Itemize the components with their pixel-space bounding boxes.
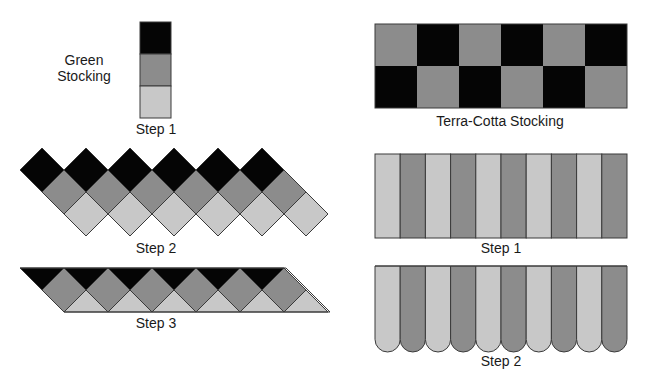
rounded-stripe [425,266,450,352]
rounded-stripe [501,266,526,352]
rounded-stripe [375,266,400,352]
green-step3-strip [20,268,330,312]
stripe [526,154,551,238]
terra-cotta-step2-rounded-stripes [375,266,627,352]
rounded-stripe [577,266,602,352]
rounded-stripe [551,266,576,352]
terra-cotta-title: Terra-Cotta Stocking [420,113,580,129]
rounded-stripe [400,266,425,352]
green-stocking-title: Green Stocking [44,52,124,84]
checker-square [375,24,417,66]
checker-square [501,66,543,108]
checker-square [375,66,417,108]
checker-square [417,24,459,66]
checker-square [501,24,543,66]
stripe [400,154,425,238]
green-stocking-title-line1: Green [44,52,124,68]
rounded-stripe [451,266,476,352]
checker-square [543,66,585,108]
stack-square [140,22,171,54]
checker-square [543,24,585,66]
stripe [451,154,476,238]
terra-cotta-step1-label: Step 1 [465,240,537,256]
stripe [577,154,602,238]
stripe [602,154,627,238]
checker-square [417,66,459,108]
checker-square [459,66,501,108]
terra-cotta-checkerboard [375,24,627,108]
terra-cotta-step2-label: Step 2 [465,353,537,369]
stack-square [140,86,171,118]
rounded-stripe [526,266,551,352]
stripe [375,154,400,238]
green-step1-stack [140,22,171,118]
terra-cotta-step1-stripes [375,154,627,238]
stripe [476,154,501,238]
stack-square [140,54,171,86]
checker-square [459,24,501,66]
stripe [501,154,526,238]
checker-square [585,24,627,66]
green-stocking-title-line2: Stocking [44,68,124,84]
stripe [425,154,450,238]
stripe [551,154,576,238]
green-step3-label: Step 3 [120,315,192,331]
green-step2-label: Step 2 [120,240,192,256]
green-step1-label: Step 1 [120,121,192,137]
rounded-stripe [476,266,501,352]
green-step2-diamonds [20,148,328,236]
rounded-stripe [602,266,627,352]
checker-square [585,66,627,108]
